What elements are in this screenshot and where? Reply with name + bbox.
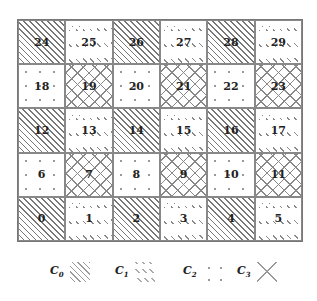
grid-cell-7: 7 [65,153,112,197]
grid-cell-17: 17 [255,108,302,152]
legend-letter: C [237,264,246,277]
cell-number: 20 [129,80,144,93]
cell-number: 24 [34,36,49,49]
grid-cell-12: 12 [18,108,65,152]
cell-number: 4 [227,212,235,225]
diagonal-hatch-swatch-icon [70,262,90,282]
grid-cell-8: 8 [113,153,160,197]
legend-subscript: 2 [192,271,197,280]
cell-number: 0 [38,212,46,225]
legend-letter: C [183,264,192,277]
cell-number: 26 [129,36,144,49]
grid-cell-27: 27 [160,20,207,64]
legend-item-c3: C3 [237,262,277,282]
cell-number: 6 [38,168,46,181]
grid-cell-24: 24 [18,20,65,64]
cell-number: 21 [176,80,191,93]
cell-number: 5 [274,212,282,225]
cell-number: 3 [180,212,188,225]
cell-number: 16 [223,124,238,137]
grid-cell-9: 9 [160,153,207,197]
cell-number: 22 [223,80,238,93]
cell-number: 10 [223,168,238,181]
dots-swatch-icon [203,262,223,282]
legend-label: C0 [50,264,64,279]
cell-number: 15 [176,124,191,137]
grid-cell-25: 25 [65,20,112,64]
cell-number: 7 [85,168,93,181]
legend-item-c0: C0 [50,262,90,282]
grid-cell-5: 5 [255,197,302,241]
grid-cell-20: 20 [113,64,160,108]
legend: C0C1C2C3 [0,262,317,286]
cell-number: 29 [271,36,286,49]
dashed-hatch-swatch-icon [135,262,155,282]
grid-cell-1: 1 [65,197,112,241]
cell-number: 2 [132,212,140,225]
cell-number: 18 [34,80,49,93]
grid-cell-15: 15 [160,108,207,152]
grid-cell-16: 16 [207,108,254,152]
cell-number: 28 [223,36,238,49]
grid-cell-28: 28 [207,20,254,64]
cell-number: 11 [271,168,286,181]
cell-number: 25 [81,36,96,49]
legend-subscript: 0 [59,271,64,280]
grid-cell-23: 23 [255,64,302,108]
cell-grid: 2425262728291819202122231213141516176789… [17,19,303,242]
legend-item-c2: C2 [183,262,223,282]
legend-subscript: 3 [246,271,251,280]
grid-cell-22: 22 [207,64,254,108]
cell-number: 13 [81,124,96,137]
cross-swatch-icon [257,262,277,282]
grid-cell-18: 18 [18,64,65,108]
legend-letter: C [115,264,124,277]
cell-number: 1 [85,212,93,225]
grid-cell-2: 2 [113,197,160,241]
legend-subscript: 1 [124,271,129,280]
grid-cell-14: 14 [113,108,160,152]
grid-cell-19: 19 [65,64,112,108]
cell-number: 27 [176,36,191,49]
grid-cell-6: 6 [18,153,65,197]
grid-cell-10: 10 [207,153,254,197]
legend-label: C2 [183,264,197,279]
cell-number: 14 [129,124,144,137]
grid-cell-21: 21 [160,64,207,108]
grid-cell-26: 26 [113,20,160,64]
cell-number: 9 [180,168,188,181]
grid-cell-29: 29 [255,20,302,64]
legend-label: C1 [115,264,129,279]
cell-number: 19 [81,80,96,93]
cell-number: 23 [271,80,286,93]
legend-label: C3 [237,264,251,279]
grid-cell-13: 13 [65,108,112,152]
grid-cell-0: 0 [18,197,65,241]
legend-item-c1: C1 [115,262,155,282]
cell-number: 8 [132,168,140,181]
grid-cell-3: 3 [160,197,207,241]
cell-number: 12 [34,124,49,137]
cell-number: 17 [271,124,286,137]
legend-letter: C [50,264,59,277]
grid-cell-11: 11 [255,153,302,197]
grid-cell-4: 4 [207,197,254,241]
